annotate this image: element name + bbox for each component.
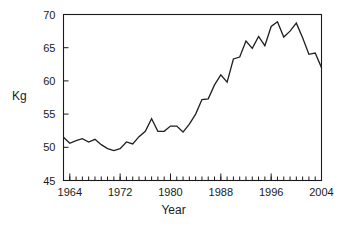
y-tick-label-60: 60	[43, 75, 55, 87]
y-tick-label-45: 45	[43, 175, 55, 187]
x-axis-minor-ticks	[64, 177, 322, 181]
x-tick-label-1988: 1988	[209, 186, 233, 198]
line-chart-plot: 455055606570 196419721980198819962004	[0, 0, 347, 227]
x-tick-label-2004: 2004	[309, 186, 333, 198]
chart-figure: Kg Year 455055606570 1964197219801988199…	[0, 0, 347, 227]
plot-border	[64, 15, 322, 181]
x-tick-label-1996: 1996	[259, 186, 283, 198]
plot-frame	[64, 15, 322, 181]
x-tick-label-1972: 1972	[108, 186, 132, 198]
y-axis-ticks: 455055606570	[43, 9, 68, 187]
x-tick-label-1964: 1964	[58, 186, 82, 198]
y-tick-label-55: 55	[43, 108, 55, 120]
x-tick-label-1980: 1980	[158, 186, 182, 198]
y-tick-label-50: 50	[43, 141, 55, 153]
y-tick-label-65: 65	[43, 42, 55, 54]
y-tick-label-70: 70	[43, 9, 55, 21]
data-series-line	[64, 22, 322, 151]
